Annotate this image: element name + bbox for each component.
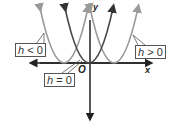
x-axis-label: x — [145, 65, 150, 75]
translation-diagram: y x O h < 0 h > 0 h = 0 — [0, 0, 180, 122]
y-axis-label: y — [93, 2, 98, 12]
label-rel: > 0 — [144, 46, 163, 58]
label-h-negative: h < 0 — [15, 43, 46, 57]
parabola-h-negative — [40, 8, 88, 63]
parabola-h-zero — [65, 8, 113, 63]
label-rel: = 0 — [53, 74, 72, 86]
origin-label: O — [78, 64, 86, 75]
graph-canvas — [0, 0, 180, 122]
label-rel: < 0 — [24, 44, 43, 56]
label-h-zero: h = 0 — [44, 73, 75, 87]
label-h-positive: h > 0 — [135, 45, 166, 59]
leader-h-positive — [133, 35, 138, 45]
parabola-h-positive — [90, 8, 138, 63]
